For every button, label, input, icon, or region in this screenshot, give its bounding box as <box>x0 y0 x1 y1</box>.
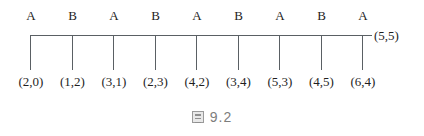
coordinate-label: (6,4) <box>339 74 387 90</box>
top-label: A <box>102 8 126 23</box>
figure-caption: 9.2 <box>0 108 424 126</box>
tick-line <box>362 35 363 70</box>
tick-line <box>321 35 322 70</box>
figure-symbol-glyph <box>192 111 204 123</box>
top-label: A <box>351 8 375 23</box>
figure-number: 9.2 <box>210 109 232 125</box>
figure-diagram: ABABABABA (2,0)(1,2)(3,1)(2,3)(4,2)(3,4)… <box>0 0 424 136</box>
end-annotation-label: (5,5) <box>374 28 399 43</box>
tick-line <box>30 35 31 70</box>
tick-line <box>72 35 73 70</box>
top-label: B <box>310 8 334 23</box>
top-label: B <box>227 8 251 23</box>
tick-line <box>196 35 197 70</box>
top-label: B <box>61 8 85 23</box>
tick-line <box>279 35 280 70</box>
top-label: A <box>185 8 209 23</box>
top-label: A <box>19 8 43 23</box>
top-label: A <box>268 8 292 23</box>
tick-line <box>113 35 114 70</box>
top-label: B <box>144 8 168 23</box>
tick-line <box>238 35 239 70</box>
tick-line <box>155 35 156 70</box>
